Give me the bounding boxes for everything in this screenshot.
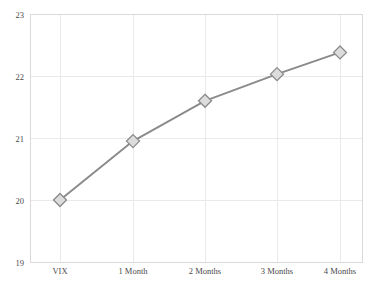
y-tick-label: 19: [16, 258, 25, 268]
line-chart: 1920212223 VIX1 Month2 Months3 Months4 M…: [0, 0, 382, 290]
chart-canvas: 1920212223 VIX1 Month2 Months3 Months4 M…: [0, 0, 382, 290]
x-tick-label: 2 Months: [189, 266, 221, 276]
y-tick-label: 21: [16, 134, 25, 144]
x-tick-label: 3 Months: [261, 266, 293, 276]
x-tick-label: 1 Month: [118, 266, 148, 276]
y-axis-tick-labels: 1920212223: [16, 10, 25, 268]
x-axis-tick-labels: VIX1 Month2 Months3 Months4 Months: [52, 266, 356, 276]
y-tick-label: 23: [16, 10, 25, 20]
y-tick-label: 22: [16, 72, 25, 82]
y-tick-label: 20: [16, 196, 25, 206]
x-tick-label: VIX: [52, 266, 67, 276]
x-tick-label: 4 Months: [324, 266, 356, 276]
